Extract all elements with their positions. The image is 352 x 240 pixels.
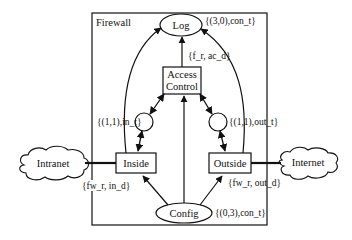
- config-label: Config: [169, 208, 199, 219]
- config-marking-label: {(0,3),con_t}: [215, 208, 266, 219]
- internet-label: Internet: [292, 157, 325, 168]
- arc-in-inside: [138, 131, 142, 151]
- access-control-label-1: Access: [167, 69, 197, 80]
- arc-access-out: [200, 94, 212, 114]
- intranet-label: Intranet: [37, 158, 70, 169]
- arc-config-to-inside: [143, 176, 168, 205]
- arc-inside-to-log: [124, 28, 161, 153]
- access-to-log-label: {f_r, ac_d}: [188, 51, 231, 61]
- arc-config-to-outside: [200, 176, 222, 205]
- access-control-label-2: Control: [166, 81, 198, 92]
- firewall-label: Firewall: [96, 17, 131, 28]
- in-marking-label: {(1,1),in_t}: [97, 117, 141, 128]
- log-label: Log: [173, 20, 191, 31]
- inside-label: Inside: [123, 158, 149, 169]
- arc-out-outside: [220, 131, 225, 151]
- arc-access-in: [150, 94, 164, 114]
- outside-internet-label: {fw_r, out_d}: [228, 178, 281, 188]
- outside-label: Outside: [214, 158, 247, 169]
- log-marking-label: {(3,0),con_t}: [205, 16, 256, 27]
- out-place[interactable]: [209, 113, 227, 131]
- inside-intranet-label: {fw_r, in_d}: [82, 181, 130, 191]
- firewall-diagram: Firewall Log {(3,0),con_t} Access Contro…: [0, 0, 352, 240]
- out-marking-label: {(1,1),out_t}: [229, 117, 278, 128]
- arc-outside-to-log: [201, 29, 244, 153]
